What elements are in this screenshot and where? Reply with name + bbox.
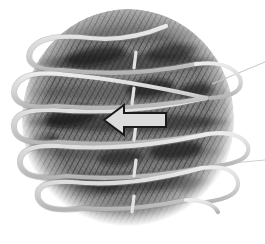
crossing-marker: [132, 196, 134, 212]
sphere-diagram-canvas: [0, 0, 265, 244]
crossing-marker: [134, 160, 136, 176]
crossing-marker: [132, 88, 134, 104]
crossing-marker: [134, 52, 136, 68]
figure-root: Banded sphere with wrapped helical coil …: [0, 0, 265, 244]
